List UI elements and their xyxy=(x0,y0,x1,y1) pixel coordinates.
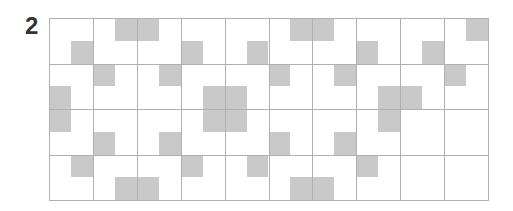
shaded-cell xyxy=(356,155,378,178)
shaded-cell xyxy=(203,109,225,132)
shaded-cell xyxy=(290,18,312,41)
shaded-cell xyxy=(49,86,71,109)
puzzle-number: 2 xyxy=(25,14,38,38)
shaded-cell xyxy=(159,64,181,87)
shaded-cell xyxy=(466,18,488,41)
shaded-cell xyxy=(181,41,203,64)
shaded-cell xyxy=(137,177,159,200)
grid-line-horizontal xyxy=(49,155,489,156)
shaded-cell xyxy=(269,132,291,155)
shaded-cell xyxy=(378,109,400,132)
grid-line-horizontal xyxy=(49,64,489,65)
shaded-cell xyxy=(71,41,93,64)
grid-line-horizontal xyxy=(49,109,489,110)
shaded-cell xyxy=(422,41,444,64)
shaded-cell xyxy=(49,109,71,132)
shaded-cell xyxy=(312,177,334,200)
shaded-cell xyxy=(247,41,269,64)
shaded-cell xyxy=(203,86,225,109)
shaded-cell xyxy=(356,41,378,64)
grid-line-horizontal xyxy=(49,200,489,201)
shaded-cell xyxy=(225,109,247,132)
shaded-cell xyxy=(312,18,334,41)
shaded-cell xyxy=(93,64,115,87)
pattern-grid xyxy=(49,18,488,200)
shaded-cell xyxy=(290,177,312,200)
shaded-cell xyxy=(93,132,115,155)
shaded-cell xyxy=(137,18,159,41)
shaded-cell xyxy=(71,155,93,178)
shaded-cell xyxy=(269,64,291,87)
shaded-cell xyxy=(378,86,400,109)
shaded-cell xyxy=(334,132,356,155)
shaded-cell xyxy=(225,86,247,109)
shaded-cell xyxy=(334,64,356,87)
shaded-cell xyxy=(444,64,466,87)
grid-line-horizontal xyxy=(49,18,489,19)
shaded-cell xyxy=(159,132,181,155)
shaded-cell xyxy=(115,18,137,41)
shaded-cell xyxy=(115,177,137,200)
shaded-cell xyxy=(181,155,203,178)
shaded-cell xyxy=(247,155,269,178)
shaded-cell xyxy=(400,86,422,109)
